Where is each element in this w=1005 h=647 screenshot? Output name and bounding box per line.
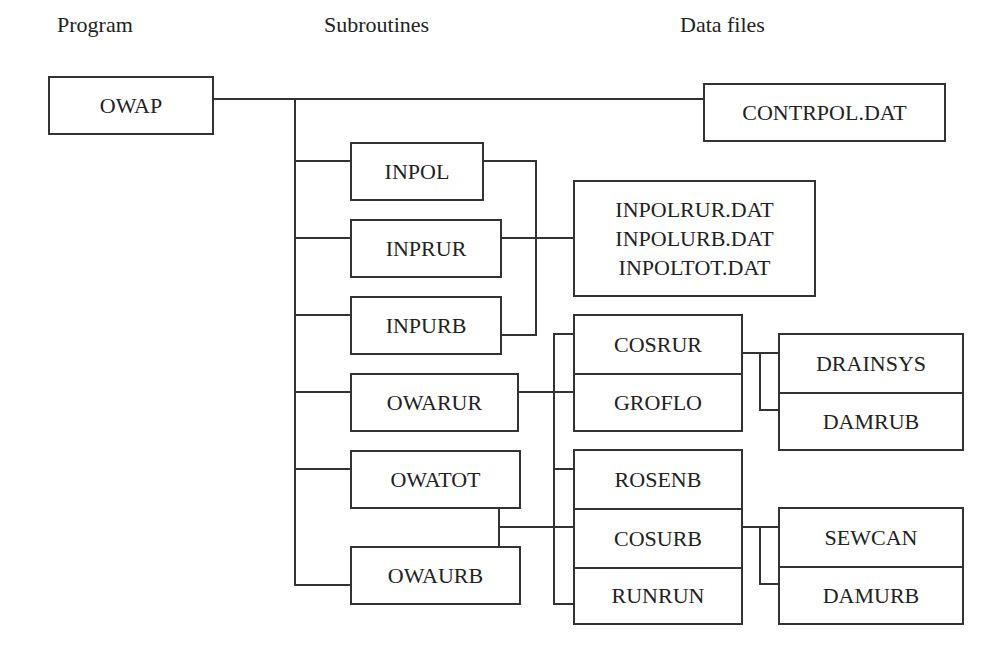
module-drainsys: DRAINSYS: [780, 335, 962, 392]
subroutine-box-owaurb: OWAURB: [350, 546, 521, 605]
datafile-label: INPOLRUR.DAT: [615, 195, 773, 224]
subroutine-label: OWATOT: [352, 452, 519, 507]
module-stack-rural: DRAINSYS DAMRUB: [778, 333, 964, 451]
subroutine-label: OWAURB: [352, 548, 519, 603]
connector-inprur-datafiles: [500, 237, 574, 239]
sub-subroutine-stack-urban: ROSENB COSURB RUNRUN: [573, 449, 743, 625]
connector-owatot-cosurb: [498, 526, 574, 528]
subroutine-label: OWARUR: [352, 375, 517, 430]
sub-subroutine-groflo: GROFLO: [575, 373, 741, 430]
sub-subroutine-stack-rural: COSRUR GROFLO: [573, 314, 743, 432]
connector-rural-modules-bracket: [759, 352, 761, 411]
connector-trunk-inpurb: [294, 314, 351, 316]
connector-main-trunk: [294, 98, 296, 586]
subroutine-box-inprur: INPRUR: [350, 219, 502, 278]
program-structure-diagram: Program Subroutines Data files OWAP CONT…: [0, 0, 1005, 647]
header-program: Program: [57, 12, 133, 38]
connector-urban-modules-bracket: [759, 526, 761, 585]
connector-trunk-inpol: [294, 160, 351, 162]
datafile-label: INPOLURB.DAT: [615, 224, 773, 253]
header-data-files: Data files: [680, 12, 765, 38]
datafile-box-contrpol: CONTRPOL.DAT: [703, 83, 946, 142]
subroutine-label: INPRUR: [352, 221, 500, 276]
datafile-box-input: INPOLRUR.DAT INPOLURB.DAT INPOLTOT.DAT: [573, 180, 816, 297]
connector-owarur-groflo: [518, 391, 574, 393]
module-damrub: DAMRUB: [780, 392, 962, 449]
datafile-label: CONTRPOL.DAT: [705, 85, 944, 140]
datafile-label: INPOLTOT.DAT: [619, 253, 771, 282]
header-subroutines: Subroutines: [324, 12, 429, 38]
connector-trunk-owarur: [294, 391, 351, 393]
connector-inpurb-bracket: [500, 334, 537, 336]
connector-damrub: [759, 409, 779, 411]
sub-subroutine-rosenb: ROSENB: [575, 451, 741, 508]
connector-cosrur: [553, 333, 574, 335]
connector-input-bracket: [535, 160, 537, 336]
subroutine-box-inpol: INPOL: [350, 142, 484, 201]
sub-subroutine-cosurb: COSURB: [575, 508, 741, 567]
sub-subroutine-cosrur: COSRUR: [575, 316, 741, 373]
subroutine-box-inpurb: INPURB: [350, 296, 502, 355]
subroutine-box-owatot: OWATOT: [350, 450, 521, 509]
module-damurb: DAMURB: [780, 566, 962, 623]
connector-rosenb: [553, 468, 574, 470]
module-stack-urban: SEWCAN DAMURB: [778, 507, 964, 625]
subroutine-label: INPURB: [352, 298, 500, 353]
program-box-owap: OWAP: [48, 76, 214, 135]
connector-inpol-bracket: [482, 160, 537, 162]
connector-trunk-owatot: [294, 468, 351, 470]
connector-owap-contrpol: [213, 98, 705, 100]
program-label: OWAP: [50, 78, 212, 133]
subroutine-box-owarur: OWARUR: [350, 373, 519, 432]
sub-subroutine-runrun: RUNRUN: [575, 567, 741, 623]
input-datafiles-list: INPOLRUR.DAT INPOLURB.DAT INPOLTOT.DAT: [575, 182, 814, 295]
connector-runrun: [553, 603, 574, 605]
subroutine-label: INPOL: [352, 144, 482, 199]
connector-trunk-inprur: [294, 237, 351, 239]
connector-owatot-owaurb: [498, 507, 500, 547]
module-sewcan: SEWCAN: [780, 509, 962, 566]
connector-trunk-owaurb: [294, 584, 351, 586]
connector-damurb: [759, 583, 779, 585]
